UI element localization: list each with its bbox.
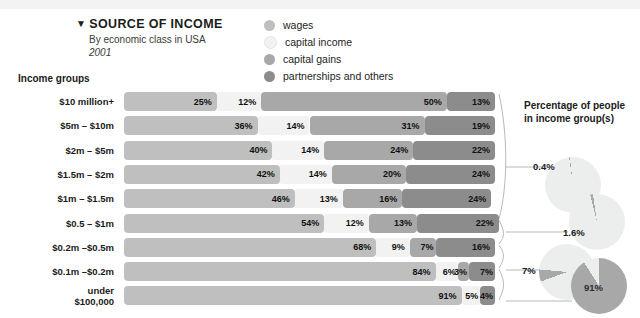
row-label: $0.1m –$0.2m — [14, 266, 114, 277]
stacked-bar: 54%12%13%22% — [124, 214, 495, 233]
bar-segment[interactable]: 50% — [261, 92, 447, 111]
bar-segment[interactable]: 24% — [402, 189, 491, 208]
pie-label: 1.6% — [563, 227, 585, 238]
bar-segment[interactable]: 7% — [469, 262, 495, 281]
bar-segment[interactable]: 42% — [124, 165, 280, 184]
bar-segment[interactable]: 4% — [480, 286, 495, 305]
segment-percent-label: 9% — [392, 242, 405, 252]
bar-segment[interactable]: 24% — [324, 141, 413, 160]
stacked-bar: 46%13%16%24% — [124, 189, 495, 208]
legend-item: capital income — [264, 34, 393, 50]
row-label-line: under — [14, 285, 114, 296]
year-label: 2001 — [89, 47, 111, 58]
bar-segment[interactable]: 22% — [413, 141, 495, 160]
segment-percent-label: 24% — [468, 194, 486, 204]
stacked-bar: 42%14%20%24% — [124, 165, 495, 184]
segment-percent-label: 42% — [257, 169, 275, 179]
segment-percent-label: 13% — [320, 194, 338, 204]
segment-percent-label: 14% — [286, 121, 304, 131]
segment-percent-label: 13% — [472, 97, 490, 107]
bar-segment[interactable]: 7% — [410, 238, 436, 257]
bar-segment[interactable]: 16% — [343, 189, 402, 208]
bar-segment[interactable]: 20% — [332, 165, 406, 184]
page-title: ▼SOURCE OF INCOME — [76, 17, 223, 31]
bar-segment[interactable]: 13% — [447, 92, 495, 111]
segment-percent-label: 16% — [472, 242, 490, 252]
bar-segment[interactable]: 91% — [124, 286, 462, 305]
bar-segment[interactable]: 12% — [324, 214, 369, 233]
bar-segment[interactable]: 54% — [124, 214, 324, 233]
bar-segment[interactable]: 14% — [258, 116, 310, 135]
stacked-bar: 36%14%31%19% — [124, 116, 495, 135]
bar-segment[interactable]: 14% — [280, 165, 332, 184]
row-label: $2m – $5m — [14, 145, 114, 156]
row-label-line: $0.2m –$0.5m — [14, 242, 114, 253]
row-label: $0.5 – $1m — [14, 218, 114, 229]
bar-segment[interactable]: 5% — [462, 286, 481, 305]
segment-percent-label: 84% — [413, 267, 431, 277]
row-label: $1.5m – $2m — [14, 169, 114, 180]
bar-segment[interactable]: 16% — [436, 238, 495, 257]
segment-percent-label: 13% — [394, 218, 412, 228]
stacked-bar: 40%14%24%22% — [124, 141, 495, 160]
bar-segment[interactable]: 19% — [425, 116, 495, 135]
segment-percent-label: 24% — [472, 169, 490, 179]
row-label: $10 million+ — [14, 96, 114, 107]
segment-percent-label: 50% — [424, 97, 442, 107]
row-label-line: $5m – $10m — [14, 120, 114, 131]
legend-swatch-icon — [264, 54, 275, 65]
row-label-line: $10 million+ — [14, 96, 114, 107]
stacked-bar: 68%9%7%16% — [124, 238, 495, 257]
segment-percent-label: 40% — [249, 145, 267, 155]
segment-percent-label: 14% — [309, 169, 327, 179]
legend-swatch-icon — [264, 20, 275, 31]
legend-item: capital gains — [264, 51, 393, 67]
row-label: $0.2m –$0.5m — [14, 242, 114, 253]
segment-percent-label: 7% — [421, 242, 434, 252]
legend-label: capital gains — [283, 53, 341, 65]
right-panel-header-line2: in income group(s) — [524, 112, 625, 125]
segment-percent-label: 3% — [454, 267, 467, 277]
bar-segment[interactable]: 3% — [458, 262, 469, 281]
segment-percent-label: 36% — [235, 121, 253, 131]
bar-segment[interactable]: 14% — [272, 141, 324, 160]
pie-inner-label: 91% — [584, 282, 603, 293]
segment-percent-label: 22% — [476, 218, 494, 228]
bar-segment[interactable]: 84% — [124, 262, 436, 281]
bar-segment[interactable]: 36% — [124, 116, 258, 135]
right-panel-header-line1: Percentage of people — [524, 99, 625, 112]
bar-segment[interactable]: 12% — [217, 92, 262, 111]
bar-segment[interactable]: 31% — [310, 116, 425, 135]
row-label: $5m – $10m — [14, 120, 114, 131]
segment-percent-label: 46% — [272, 194, 290, 204]
triangle-down-icon: ▼ — [76, 18, 86, 29]
legend-label: wages — [283, 19, 313, 31]
row-label-line: $100,000 — [14, 296, 114, 307]
segment-percent-label: 14% — [301, 145, 319, 155]
stacked-bar: 25%12%50%13% — [124, 92, 495, 111]
legend-swatch-icon — [264, 36, 277, 49]
bar-segment[interactable]: 22% — [417, 214, 499, 233]
segment-percent-label: 25% — [194, 97, 212, 107]
segment-percent-label: 22% — [472, 145, 490, 155]
bar-segment[interactable]: 25% — [124, 92, 217, 111]
segment-percent-label: 54% — [301, 218, 319, 228]
row-label-line: $0.1m –$0.2m — [14, 266, 114, 277]
title-text: SOURCE OF INCOME — [89, 17, 222, 31]
income-groups-header: Income groups — [18, 73, 90, 84]
bar-segment[interactable]: 9% — [376, 238, 409, 257]
right-panel-header: Percentage of people in income group(s) — [524, 99, 625, 125]
row-label-line: $0.5 – $1m — [14, 218, 114, 229]
bar-segment[interactable]: 24% — [406, 165, 495, 184]
stacked-bar: 91%5%4% — [124, 286, 495, 305]
segment-percent-label: 31% — [401, 121, 419, 131]
bar-segment[interactable]: 40% — [124, 141, 272, 160]
bar-segment[interactable]: 13% — [369, 214, 417, 233]
segment-percent-label: 91% — [439, 291, 457, 301]
bar-segment[interactable]: 46% — [124, 189, 295, 208]
bar-segment[interactable]: 68% — [124, 238, 376, 257]
row-label-line: $2m – $5m — [14, 145, 114, 156]
bar-segment[interactable]: 13% — [295, 189, 343, 208]
row-label: under$100,000 — [14, 285, 114, 307]
row-label-line: $1m – $1.5m — [14, 193, 114, 204]
